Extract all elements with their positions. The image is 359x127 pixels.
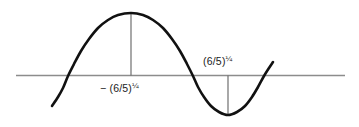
plot-canvas <box>0 0 359 127</box>
label-positive-base: (6/5) <box>203 55 226 67</box>
label-negative-exponent: ¼ <box>132 81 139 90</box>
plotted-curve <box>52 13 273 115</box>
label-positive-fourth-root: (6/5)¼ <box>203 56 232 67</box>
label-negative-base: − (6/5) <box>100 82 132 94</box>
label-positive-exponent: ¼ <box>226 54 233 63</box>
curve-figure: − (6/5)¼ (6/5)¼ <box>0 0 359 127</box>
label-negative-fourth-root: − (6/5)¼ <box>100 83 139 94</box>
